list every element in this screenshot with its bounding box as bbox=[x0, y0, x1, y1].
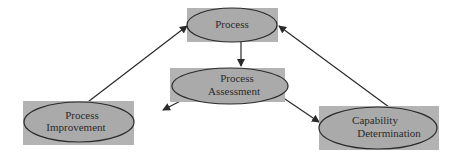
node-process-improvement-label-line2: Improvement bbox=[46, 121, 105, 133]
node-process: Process bbox=[187, 8, 278, 42]
diagram-canvas: Process Process Assessment Process Impro… bbox=[0, 0, 463, 157]
node-process-improvement: Process Improvement bbox=[23, 101, 134, 145]
node-capability-determination: Capability Determination bbox=[319, 106, 439, 150]
node-capability-determination-label-line1: Capability bbox=[352, 114, 398, 126]
node-process-improvement-label-line1: Process bbox=[65, 109, 99, 121]
arrow-assessment-to-capability bbox=[282, 97, 319, 122]
node-process-assessment-label-line1: Process bbox=[220, 72, 254, 84]
node-process-label-line1: Process bbox=[215, 18, 249, 30]
process-cycle-diagram: Process Process Assessment Process Impro… bbox=[0, 0, 463, 157]
node-process-assessment-label-line2: Assessment bbox=[208, 85, 260, 97]
node-process-assessment: Process Assessment bbox=[170, 68, 288, 104]
arrow-capability-to-process bbox=[279, 26, 393, 110]
node-capability-determination-label-line2: Determination bbox=[357, 127, 421, 139]
